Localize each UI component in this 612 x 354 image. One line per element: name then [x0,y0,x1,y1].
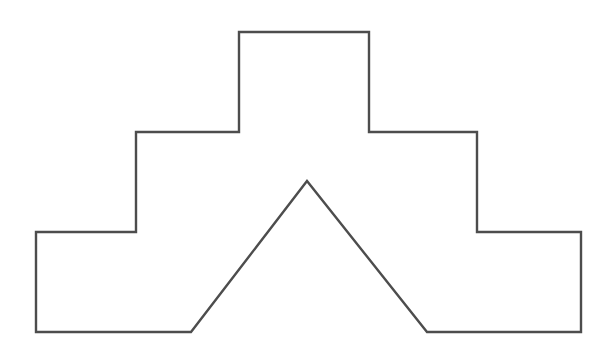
figure-canvas [0,0,612,354]
polygon-drawing-svg [0,0,612,354]
